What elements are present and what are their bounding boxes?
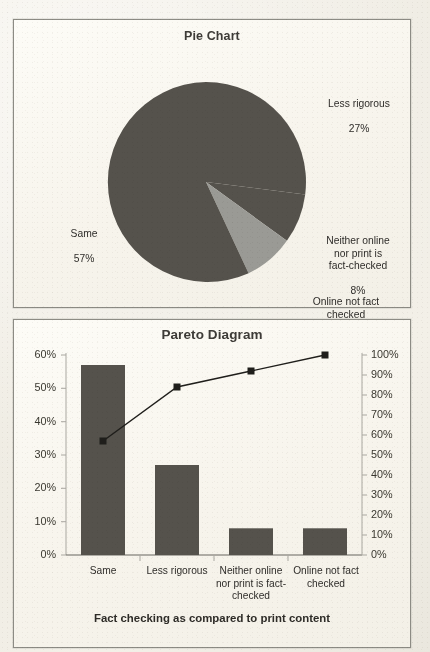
pie-chart-panel: Pie Chart Less rigorous 27% Neither onli… [13, 19, 411, 308]
y-axis-right-label-20: 20% [371, 508, 415, 520]
y-axis-right-label-70: 70% [371, 408, 415, 420]
y-axis-right-label-80: 80% [371, 388, 415, 400]
pareto-diagram-panel: Pareto Diagram [13, 319, 411, 648]
pie-slice-less-rigorous [206, 82, 306, 195]
cumulative-markers [100, 352, 329, 445]
x-axis-category-less-rigorous: Less rigorous [138, 565, 216, 578]
pie-label-same: Same 57% [36, 216, 132, 266]
x-axis-category-ticks [140, 555, 288, 561]
pie-label-name: Less rigorous [328, 98, 390, 109]
y-axis-right-ticks [362, 355, 367, 555]
x-axis-category-neither-online-nor-print: Neither onlinenor print is fact-checked [212, 565, 290, 603]
cumulative-marker [248, 368, 255, 375]
x-axis-title: Fact checking as compared to print conte… [14, 612, 410, 624]
y-axis-left-label-20: 20% [16, 481, 56, 493]
y-axis-left-ticks [61, 355, 66, 555]
cumulative-marker [100, 438, 107, 445]
bar-same [81, 365, 125, 555]
y-axis-left-label-0: 0% [16, 548, 56, 560]
pie-label-name: Neither onlinenor print isfact-checked [326, 235, 390, 271]
y-axis-right-label-100: 100% [371, 348, 415, 360]
y-axis-left-label-10: 10% [16, 515, 56, 527]
y-axis-left-label-60: 60% [16, 348, 56, 360]
y-axis-left-label-40: 40% [16, 415, 56, 427]
pie-label-value: 27% [349, 123, 370, 134]
bar-neither-online-nor-print [229, 528, 273, 555]
cumulative-marker [174, 384, 181, 391]
pie-label-name: Online not factchecked [313, 296, 379, 319]
x-axis-category-online-not-fact-checked: Online not factchecked [288, 565, 364, 590]
y-axis-right-label-90: 90% [371, 368, 415, 380]
y-axis-left-label-50: 50% [16, 381, 56, 393]
y-axis-right-label-40: 40% [371, 468, 415, 480]
y-axis-right-label-0: 0% [371, 548, 415, 560]
y-axis-left-label-30: 30% [16, 448, 56, 460]
cumulative-line [103, 355, 325, 441]
y-axis-right-label-30: 30% [371, 488, 415, 500]
pie-label-less-rigorous: Less rigorous 27% [306, 86, 412, 136]
cumulative-marker [322, 352, 329, 359]
x-axis-category-same: Same [66, 565, 140, 578]
bar-less-rigorous [155, 465, 199, 555]
pie-label-value: 57% [74, 253, 95, 264]
y-axis-right-label-60: 60% [371, 428, 415, 440]
y-axis-right-label-50: 50% [371, 448, 415, 460]
pie-label-name: Same [71, 228, 98, 239]
bar-online-not-fact-checked [303, 528, 347, 555]
y-axis-right-label-10: 10% [371, 528, 415, 540]
scanned-page: Pie Chart Less rigorous 27% Neither onli… [0, 0, 430, 652]
